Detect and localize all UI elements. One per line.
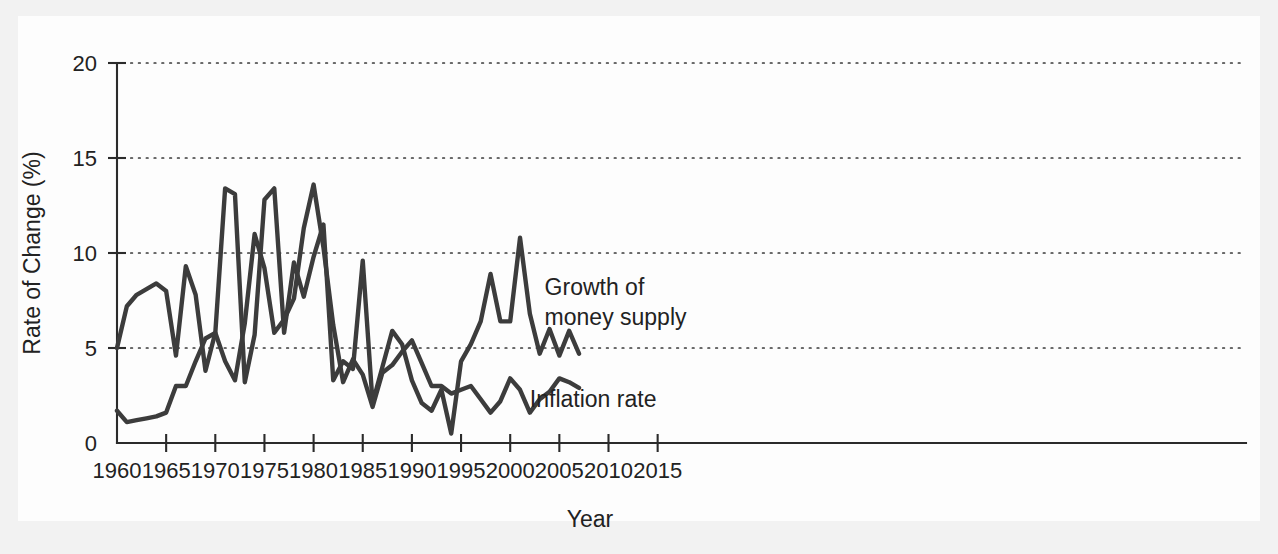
x-tick-label-1980: 1980 [289, 458, 338, 483]
series-line-money-supply [117, 188, 579, 433]
annotation-money-supply-label: Growth ofmoney supply [545, 274, 687, 330]
annotation-inflation-label: Inflation rate [530, 386, 657, 412]
x-tick-label-2010: 2010 [584, 458, 633, 483]
x-tick-label-1990: 1990 [387, 458, 436, 483]
y-tick-labels: 05101520 [73, 51, 97, 456]
x-axis-title: Year [567, 506, 614, 532]
y-tick-label-10: 10 [73, 241, 97, 266]
x-tick-label-2000: 2000 [486, 458, 535, 483]
y-tick-label-0: 0 [85, 431, 97, 456]
x-tick-label-2015: 2015 [633, 458, 682, 483]
x-tick-label-1965: 1965 [142, 458, 191, 483]
data-series [117, 185, 579, 434]
x-tick-label-1995: 1995 [437, 458, 486, 483]
x-tick-labels: 1960196519701975198019851990199520002005… [93, 458, 683, 483]
x-tick-label-1970: 1970 [191, 458, 240, 483]
x-tick-label-1985: 1985 [338, 458, 387, 483]
x-tick-label-1975: 1975 [240, 458, 289, 483]
x-tick-label-1960: 1960 [93, 458, 142, 483]
series-line-inflation-rate [117, 185, 579, 423]
y-tick-label-15: 15 [73, 146, 97, 171]
x-tick-label-2005: 2005 [535, 458, 584, 483]
y-axis-title: Rate of Change (%) [19, 151, 45, 354]
y-tick-label-5: 5 [85, 336, 97, 361]
chart-page: 1960196519701975198019851990199520002005… [0, 0, 1278, 554]
y-tick-label-20: 20 [73, 51, 97, 76]
line-chart: 1960196519701975198019851990199520002005… [0, 0, 1278, 554]
